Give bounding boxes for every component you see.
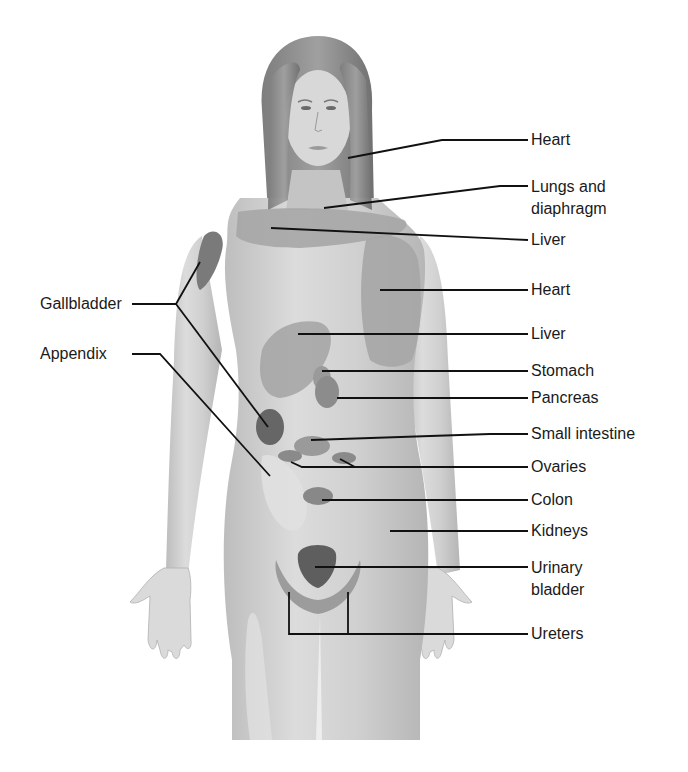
label-liver-upper: Liver <box>531 230 566 250</box>
label-urinary-line1: Urinary <box>531 557 584 579</box>
label-ovaries: Ovaries <box>531 457 586 477</box>
zone-colon <box>303 487 333 505</box>
label-urinary-line2: bladder <box>531 579 584 601</box>
zone-ovary-left <box>332 452 356 464</box>
zone-pancreas <box>315 376 339 408</box>
eye-right <box>301 106 311 110</box>
label-stomach: Stomach <box>531 361 594 381</box>
label-small-intestine: Small intestine <box>531 424 635 444</box>
label-pancreas: Pancreas <box>531 388 599 408</box>
label-urinary-bladder: Urinary bladder <box>531 557 584 601</box>
neck <box>286 170 348 210</box>
right-hand <box>130 568 191 659</box>
zone-gallbladder <box>256 409 284 445</box>
label-lungs-line2: diaphragm <box>531 198 607 220</box>
label-appendix: Appendix <box>40 344 107 364</box>
label-lungs-line1: Lungs and <box>531 176 607 198</box>
zone-heart-chest <box>361 236 421 367</box>
label-colon: Colon <box>531 490 573 510</box>
referred-pain-figure <box>0 0 688 772</box>
label-liver-mid: Liver <box>531 324 566 344</box>
label-lungs-and-diaphragm: Lungs and diaphragm <box>531 176 607 220</box>
label-ureters: Ureters <box>531 624 583 644</box>
right-arm <box>166 236 222 575</box>
label-gallbladder: Gallbladder <box>40 294 122 314</box>
label-heart-upper: Heart <box>531 130 570 150</box>
label-kidneys: Kidneys <box>531 521 588 541</box>
label-heart-chest: Heart <box>531 280 570 300</box>
eye-left <box>326 106 336 110</box>
